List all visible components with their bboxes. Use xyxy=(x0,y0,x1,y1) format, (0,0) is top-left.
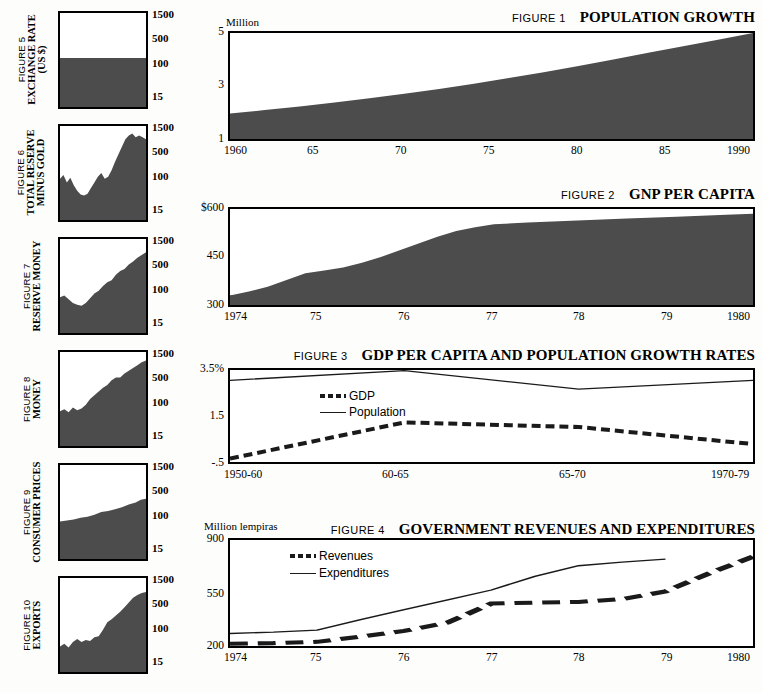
figure-1-xtick-5: 85 xyxy=(659,144,671,156)
figure-1-xtick-2: 70 xyxy=(395,144,407,156)
mini-figure-7: FIGURE 7 RESERVE MONEY 1500 500 100 15 xyxy=(0,232,190,340)
figure-3-plot xyxy=(228,368,755,464)
mini-figure-8-yaxis: 1500 500 100 15 xyxy=(150,350,188,448)
figure-1-xtick-4: 80 xyxy=(571,144,583,156)
figure-1-unit-label: Million xyxy=(226,16,259,28)
figure-4-xtick-4: 78 xyxy=(573,651,585,663)
figure-4-header: FIGURE 4 GOVERNMENT REVENUES AND EXPENDI… xyxy=(331,520,755,538)
mini-ytick-1500: 1500 xyxy=(152,348,174,359)
mini-figure-6: FIGURE 6 TOTAL RESERVE MINUS GOLD 1500 5… xyxy=(0,119,190,227)
figure-2: FIGURE 2 GNP PER CAPITA $600 450 300 197… xyxy=(190,185,763,335)
mini-figure-10-yaxis: 1500 500 100 15 xyxy=(150,576,188,674)
figure-4-ytick-2: 200 xyxy=(192,639,224,651)
mini-ytick-500: 500 xyxy=(152,372,169,383)
mini-figure-5-yaxis: 1500 500 100 15 xyxy=(150,11,188,109)
mini-ytick-15: 15 xyxy=(152,656,163,667)
mini-figure-7-number: FIGURE 7 xyxy=(22,241,32,332)
mini-ytick-500: 500 xyxy=(152,146,169,157)
figure-4-legend-revenues: Revenues xyxy=(290,549,373,563)
mini-ytick-15: 15 xyxy=(152,543,163,554)
figure-4-xtick-3: 77 xyxy=(486,651,498,663)
mini-figure-10-number: FIGURE 10 xyxy=(22,600,32,651)
figure-4-ytick-0: 900 xyxy=(192,532,224,544)
mini-figure-5-plot xyxy=(58,11,148,109)
figure-2-ytick-0: $600 xyxy=(192,201,224,213)
mini-figure-9: FIGURE 9 CONSUMER PRICES 1500 500 100 15 xyxy=(0,458,190,566)
mini-figure-10-label: FIGURE 10 EXPORTS xyxy=(6,571,58,679)
figure-3-title: GDP PER CAPITA AND POPULATION GROWTH RAT… xyxy=(362,347,755,363)
mini-ytick-500: 500 xyxy=(152,259,169,270)
dashed-line-icon xyxy=(290,554,316,558)
mini-figure-5-label: FIGURE 5 EXCHANGE RATE (US $) xyxy=(6,6,58,114)
mini-ytick-100: 100 xyxy=(152,623,169,634)
figure-3: FIGURE 3 GDP PER CAPITA AND POPULATION G… xyxy=(190,346,763,496)
figure-2-ytick-1: 450 xyxy=(192,249,224,261)
figure-2-xtick-1: 75 xyxy=(310,310,322,322)
mini-figure-8-label: FIGURE 8 MONEY xyxy=(6,345,58,453)
figure-4-legend-revenues-label: Revenues xyxy=(319,549,373,563)
figure-3-legend-gdp-label: GDP xyxy=(349,389,375,403)
figure-4-legend-expenditures-label: Expenditures xyxy=(319,566,389,580)
dashed-line-icon xyxy=(320,394,346,398)
figure-3-header: FIGURE 3 GDP PER CAPITA AND POPULATION G… xyxy=(294,346,755,364)
mini-figure-10-title: EXPORTS xyxy=(31,600,42,651)
mini-figure-5: FIGURE 5 EXCHANGE RATE (US $) 1500 500 1… xyxy=(0,6,190,114)
mini-ytick-1500: 1500 xyxy=(152,235,174,246)
mini-ytick-100: 100 xyxy=(152,284,169,295)
figure-2-xtick-6: 1980 xyxy=(727,310,750,322)
figure-4-xtick-2: 76 xyxy=(398,651,410,663)
mini-figure-7-title: RESERVE MONEY xyxy=(31,241,42,332)
figure-2-header: FIGURE 2 GNP PER CAPITA xyxy=(561,185,755,203)
figure-3-legend-population: Population xyxy=(320,405,406,419)
mini-figure-6-plot xyxy=(58,124,148,222)
mini-ytick-500: 500 xyxy=(152,33,169,44)
mini-ytick-1500: 1500 xyxy=(152,461,174,472)
mini-figure-9-title: CONSUMER PRICES xyxy=(32,462,43,563)
mini-figure-8-title: MONEY xyxy=(31,376,42,421)
figure-4-unit-label: Million lempiras xyxy=(204,520,278,532)
document-page: FIGURE 5 EXCHANGE RATE (US $) 1500 500 1… xyxy=(0,0,763,693)
figure-4-legend-expenditures: Expenditures xyxy=(290,566,389,580)
figure-3-ytick-2: -.5 xyxy=(190,456,224,468)
mini-figure-10-plot xyxy=(58,576,148,674)
figure-3-legend-gdp: GDP xyxy=(320,389,375,403)
figure-1-ytick-1: 3 xyxy=(204,78,224,90)
figure-2-xtick-2: 76 xyxy=(398,310,410,322)
mini-ytick-100: 100 xyxy=(152,510,169,521)
mini-figure-8-plot xyxy=(58,350,148,448)
figure-3-xtick-3: 1970-79 xyxy=(711,468,749,480)
figure-3-number: FIGURE 3 xyxy=(294,350,348,362)
mini-ytick-15: 15 xyxy=(152,91,163,102)
figure-3-ytick-0: 3.5% xyxy=(190,362,224,374)
figure-2-xtick-5: 79 xyxy=(661,310,673,322)
figure-1-xtick-1: 65 xyxy=(307,144,319,156)
figure-4-title: GOVERNMENT REVENUES AND EXPENDITURES xyxy=(399,521,755,537)
main-figures: FIGURE 1 POPULATION GROWTH Million 5 3 1… xyxy=(190,0,763,693)
figure-3-xtick-1: 60-65 xyxy=(382,468,409,480)
figure-1-title: POPULATION GROWTH xyxy=(580,9,755,25)
figure-1-ytick-2: 1 xyxy=(204,132,224,144)
mini-ytick-100: 100 xyxy=(152,171,169,182)
figure-4-xtick-5: 79 xyxy=(661,651,673,663)
mini-figure-5-subtitle: (US $) xyxy=(37,15,48,105)
figure-2-xtick-3: 77 xyxy=(486,310,498,322)
figure-2-title: GNP PER CAPITA xyxy=(629,186,755,202)
mini-ytick-1500: 1500 xyxy=(152,574,174,585)
figure-1-xtick-0: 1960 xyxy=(224,144,247,156)
figure-3-legend-population-label: Population xyxy=(349,405,406,419)
mini-figure-7-plot xyxy=(58,237,148,335)
figure-1: FIGURE 1 POPULATION GROWTH Million 5 3 1… xyxy=(190,8,763,178)
figure-2-plot xyxy=(228,207,755,307)
figure-2-ytick-2: 300 xyxy=(192,298,224,310)
figure-2-number: FIGURE 2 xyxy=(561,189,615,201)
mini-figure-6-yaxis: 1500 500 100 15 xyxy=(150,124,188,222)
mini-ytick-1500: 1500 xyxy=(152,9,174,20)
mini-figure-9-plot xyxy=(58,463,148,561)
mini-figure-7-label: FIGURE 7 RESERVE MONEY xyxy=(6,232,58,340)
mini-figure-6-subtitle: MINUS GOLD xyxy=(37,130,48,216)
figure-1-header: FIGURE 1 POPULATION GROWTH xyxy=(512,8,755,26)
mini-ytick-500: 500 xyxy=(152,598,169,609)
figure-1-plot xyxy=(228,31,755,141)
mini-ytick-1500: 1500 xyxy=(152,122,174,133)
mini-figure-7-yaxis: 1500 500 100 15 xyxy=(150,237,188,335)
